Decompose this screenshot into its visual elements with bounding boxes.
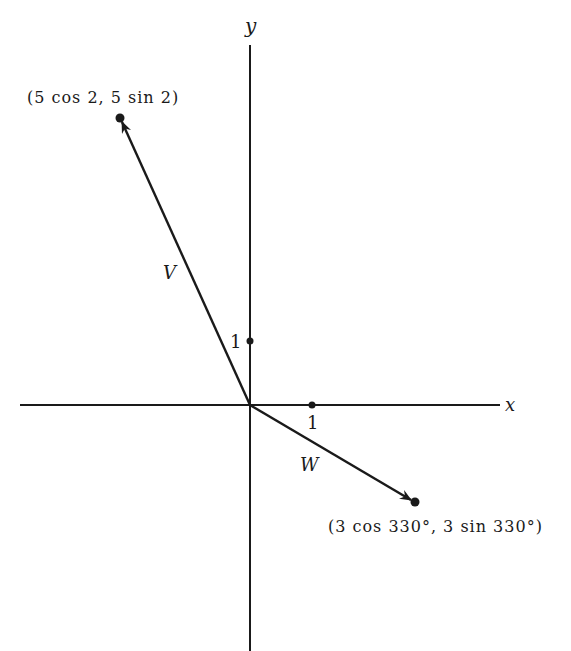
y-axis-label: y	[245, 14, 256, 38]
vector-w-endpoint	[411, 498, 420, 507]
vector-w-arrow	[250, 405, 411, 500]
y-unit-dot	[247, 338, 254, 345]
vector-v-arrow	[122, 122, 250, 405]
x-unit-dot	[309, 402, 316, 409]
y-tick-label: 1	[230, 331, 241, 352]
vector-w-label: W	[300, 454, 319, 475]
vector-v-endpoint-label: (5 cos 2, 5 sin 2)	[27, 88, 179, 107]
vector-v-label: V	[163, 262, 176, 283]
vector-v-endpoint	[116, 114, 125, 123]
x-tick-label: 1	[307, 412, 318, 433]
x-axis-label: x	[505, 394, 515, 415]
vector-w-endpoint-label: (3 cos 330°, 3 sin 330°)	[328, 517, 543, 536]
